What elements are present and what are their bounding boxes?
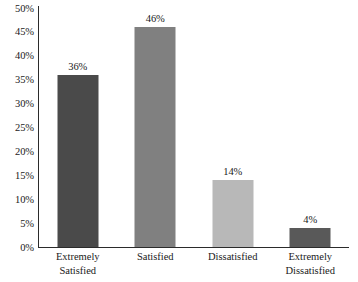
bar-group: 14% [194, 8, 272, 247]
y-axis-tick-label: 45% [0, 26, 34, 37]
x-axis-line [38, 247, 349, 248]
bar-value-label: 46% [146, 13, 165, 24]
bar-value-label: 4% [303, 214, 317, 225]
bar-chart: 0%5%10%15%20%25%30%35%40%45%50% 36%46%14… [0, 0, 358, 282]
bar-group: 4% [272, 8, 350, 247]
y-axis-tick-label: 25% [0, 122, 34, 133]
bar-group: 36% [39, 8, 117, 247]
x-axis-category-label-line: Extremely [272, 250, 350, 264]
y-axis-tick-label: 5% [0, 218, 34, 229]
x-axis-category-label-line: Extremely [39, 250, 117, 264]
x-axis-category-label: Dissatisfied [194, 250, 272, 264]
y-axis-tick-label: 0% [0, 242, 34, 253]
x-axis-category-label-line: Dissatisfied [272, 264, 350, 278]
y-axis-tick-label: 20% [0, 146, 34, 157]
x-axis-category-label-line: Dissatisfied [194, 250, 272, 264]
y-axis-tick-label: 35% [0, 74, 34, 85]
y-axis-tick-label: 30% [0, 98, 34, 109]
y-axis-tick-label: 15% [0, 170, 34, 181]
x-axis-category-label: ExtremelyDissatisfied [272, 250, 350, 277]
bar[interactable] [290, 228, 331, 247]
x-axis-category-label: ExtremelySatisfied [39, 250, 117, 277]
bar[interactable] [212, 180, 253, 247]
x-axis-category-label: Satisfied [117, 250, 195, 264]
bar-value-label: 14% [223, 166, 242, 177]
bar-value-label: 36% [68, 61, 87, 72]
x-axis-category-label-line: Satisfied [117, 250, 195, 264]
y-axis-tick-label: 40% [0, 50, 34, 61]
bar[interactable] [57, 75, 98, 247]
y-axis-tick-labels: 0%5%10%15%20%25%30%35%40%45%50% [0, 0, 34, 282]
bar[interactable] [135, 27, 176, 247]
bar-group: 46% [117, 8, 195, 247]
x-axis-category-labels: ExtremelySatisfiedSatisfiedDissatisfiedE… [39, 250, 349, 282]
y-axis-tick-label: 50% [0, 3, 34, 14]
x-axis-category-label-line: Satisfied [39, 264, 117, 278]
plot-area: 36%46%14%4% [39, 8, 349, 247]
y-axis-tick-label: 10% [0, 194, 34, 205]
